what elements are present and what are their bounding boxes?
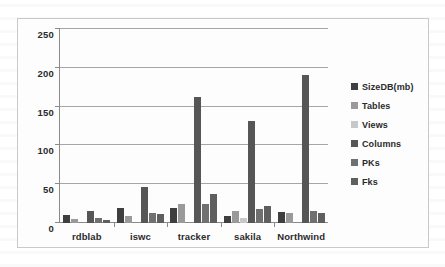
bar: [202, 204, 209, 223]
legend-item[interactable]: Columns: [351, 134, 427, 153]
bar: [125, 216, 132, 223]
plot-wrapper: 050100150200250 rdblabiswctrackersakilaN…: [18, 19, 428, 247]
x-axis-label-rdblab: rdblab: [60, 231, 114, 242]
legend-swatch-icon: [351, 102, 358, 109]
bar: [256, 209, 263, 223]
bar-group: [60, 29, 114, 223]
legend-swatch-icon: [351, 83, 358, 90]
legend-label: Views: [362, 120, 388, 130]
bar: [278, 212, 285, 223]
bar: [248, 121, 255, 223]
x-axis-category-labels: rdblabiswctrackersakilaNorthwind: [60, 231, 328, 242]
legend-item[interactable]: Tables: [351, 96, 427, 115]
bar: [170, 208, 177, 223]
bar-group: [221, 29, 275, 223]
chart-legend: SizeDB(mb)TablesViewsColumnsPKsFks: [351, 77, 427, 191]
bar: [224, 216, 231, 223]
bar: [95, 218, 102, 223]
bar: [286, 213, 293, 223]
bar: [240, 218, 247, 223]
legend-item[interactable]: SizeDB(mb): [351, 77, 427, 96]
plot-area: 050100150200250: [60, 29, 328, 223]
bar: [232, 211, 239, 223]
bar: [63, 215, 70, 223]
legend-label: SizeDB(mb): [362, 82, 414, 92]
bar: [157, 214, 164, 223]
legend-swatch-icon: [351, 121, 358, 128]
legend-swatch-icon: [351, 140, 358, 147]
legend-label: Columns: [362, 139, 401, 149]
bar: [71, 219, 78, 223]
x-axis-label-sakila: sakila: [221, 231, 275, 242]
legend-swatch-icon: [351, 178, 358, 185]
bar: [318, 213, 325, 223]
bar-group: [274, 29, 328, 223]
chart-frame: 050100150200250 rdblabiswctrackersakilaN…: [17, 18, 429, 248]
bar-groups: [60, 29, 328, 223]
bar: [194, 97, 201, 223]
legend-swatch-icon: [351, 159, 358, 166]
bar: [302, 75, 309, 223]
bar: [310, 211, 317, 223]
bar: [141, 187, 148, 223]
legend-label: PKs: [362, 158, 380, 168]
bar: [149, 213, 156, 223]
x-axis-label-iswc: iswc: [114, 231, 168, 242]
bar: [87, 211, 94, 223]
bar: [178, 204, 185, 223]
legend-label: Fks: [362, 177, 378, 187]
bar-group: [167, 29, 221, 223]
bar: [264, 206, 271, 223]
bar: [117, 208, 124, 223]
legend-label: Tables: [362, 101, 390, 111]
legend-item[interactable]: Fks: [351, 172, 427, 191]
legend-item[interactable]: Views: [351, 115, 427, 134]
x-axis-label-northwind: Northwind: [274, 231, 328, 242]
bar: [210, 194, 217, 223]
legend-item[interactable]: PKs: [351, 153, 427, 172]
bar-group: [114, 29, 168, 223]
bar: [103, 220, 110, 223]
x-axis-label-tracker: tracker: [167, 231, 221, 242]
